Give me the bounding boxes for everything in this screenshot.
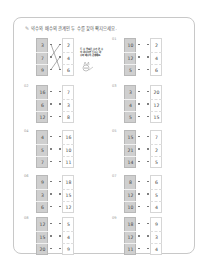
- left-connect-dot[interactable]: [138, 206, 140, 208]
- right-connect-dot[interactable]: [147, 193, 149, 195]
- right-connect-dot[interactable]: [147, 44, 149, 46]
- right-connect-dot[interactable]: [147, 148, 149, 150]
- right-number-column: 654: [150, 175, 162, 213]
- right-connect-dot[interactable]: [59, 181, 61, 183]
- right-connect-dot[interactable]: [59, 235, 61, 237]
- right-number-column: 934: [150, 217, 162, 255]
- left-connect-dot[interactable]: [138, 193, 140, 195]
- left-connect-dot[interactable]: [138, 235, 140, 237]
- problem-03: 03345201215: [118, 85, 190, 123]
- right-connect-dot[interactable]: [59, 103, 61, 105]
- right-connect-dot[interactable]: [147, 248, 149, 250]
- right-connect-dot[interactable]: [59, 44, 61, 46]
- left-connect-dot[interactable]: [138, 91, 140, 93]
- right-connect-dot[interactable]: [147, 223, 149, 225]
- left-connect-dot[interactable]: [50, 116, 52, 118]
- right-number: 6: [150, 64, 162, 77]
- right-number: 2: [62, 39, 74, 52]
- right-connect-dot[interactable]: [147, 103, 149, 105]
- right-connect-dot[interactable]: [147, 206, 149, 208]
- left-connect-dot[interactable]: [50, 91, 52, 93]
- right-connect-dot[interactable]: [59, 136, 61, 138]
- left-number-column: 181211: [124, 217, 136, 255]
- right-connect-dot[interactable]: [59, 248, 61, 250]
- problem-08: 08121520549: [30, 217, 102, 255]
- left-connect-dot[interactable]: [50, 181, 52, 183]
- right-connect-dot[interactable]: [147, 91, 149, 93]
- right-number: 5: [150, 156, 162, 169]
- left-connect-dot[interactable]: [50, 223, 52, 225]
- left-connect-dot[interactable]: [138, 148, 140, 150]
- left-connect-dot[interactable]: [50, 206, 52, 208]
- right-number: 4: [62, 231, 74, 244]
- right-number: 3: [150, 231, 162, 244]
- left-connect-dot[interactable]: [50, 69, 52, 71]
- right-number: 10: [62, 144, 74, 157]
- left-connect-dot[interactable]: [50, 161, 52, 163]
- left-number: 15: [124, 131, 136, 144]
- left-number: 12: [124, 231, 136, 244]
- left-connect-dot[interactable]: [138, 116, 140, 118]
- left-connect-dot[interactable]: [138, 136, 140, 138]
- right-connect-dot[interactable]: [59, 193, 61, 195]
- right-connect-dot[interactable]: [147, 161, 149, 163]
- left-connect-dot[interactable]: [50, 193, 52, 195]
- problem-number: 03: [112, 84, 117, 88]
- left-connect-dot[interactable]: [50, 56, 52, 58]
- right-connect-dot[interactable]: [59, 161, 61, 163]
- right-connect-dot[interactable]: [147, 116, 149, 118]
- right-number: 11: [62, 156, 74, 169]
- left-connect-dot[interactable]: [138, 44, 140, 46]
- right-connect-dot[interactable]: [59, 206, 61, 208]
- left-connect-dot[interactable]: [50, 44, 52, 46]
- right-number-column: 246: [150, 38, 162, 76]
- left-number: 5: [124, 64, 136, 77]
- right-connect-dot[interactable]: [59, 69, 61, 71]
- right-number: 4: [150, 52, 162, 65]
- left-connect-dot[interactable]: [138, 248, 140, 250]
- left-connect-dot[interactable]: [138, 181, 140, 183]
- left-number: 4: [124, 99, 136, 112]
- left-connect-dot[interactable]: [50, 148, 52, 150]
- right-number: 2: [150, 144, 162, 157]
- right-connect-dot[interactable]: [147, 56, 149, 58]
- problem-number: 09: [112, 216, 117, 220]
- problem-09: 09181211934: [118, 217, 190, 255]
- left-connect-dot[interactable]: [50, 235, 52, 237]
- left-number: 7: [36, 52, 48, 65]
- left-number: 6: [36, 201, 48, 214]
- left-number-column: 457: [36, 130, 48, 168]
- left-number: 5: [124, 111, 136, 124]
- left-number: 12: [124, 189, 136, 202]
- right-connect-dot[interactable]: [59, 91, 61, 93]
- left-connect-dot[interactable]: [138, 161, 140, 163]
- left-connect-dot[interactable]: [50, 103, 52, 105]
- right-number: 5: [150, 189, 162, 202]
- left-connect-dot[interactable]: [138, 223, 140, 225]
- left-connect-dot[interactable]: [138, 103, 140, 105]
- right-number: 16: [62, 131, 74, 144]
- right-connect-dot[interactable]: [59, 223, 61, 225]
- right-number-column: 246: [62, 38, 74, 76]
- left-number: 3: [36, 189, 48, 202]
- right-number: 4: [62, 52, 74, 65]
- right-connect-dot[interactable]: [59, 148, 61, 150]
- right-number-column: 549: [62, 217, 74, 255]
- problem-number: 05: [112, 129, 117, 133]
- left-connect-dot[interactable]: [138, 56, 140, 58]
- right-connect-dot[interactable]: [147, 181, 149, 183]
- right-connect-dot[interactable]: [59, 116, 61, 118]
- left-connect-dot[interactable]: [50, 248, 52, 250]
- right-connect-dot[interactable]: [147, 136, 149, 138]
- right-number: 2: [150, 39, 162, 52]
- right-number: 18: [62, 176, 74, 189]
- problem-number: 06: [24, 174, 29, 178]
- right-number: 6: [62, 64, 74, 77]
- problem-07: 0781210654: [118, 175, 190, 213]
- left-connect-dot[interactable]: [138, 69, 140, 71]
- left-number: 3: [36, 39, 48, 52]
- left-connect-dot[interactable]: [50, 136, 52, 138]
- right-connect-dot[interactable]: [59, 56, 61, 58]
- right-connect-dot[interactable]: [147, 69, 149, 71]
- right-connect-dot[interactable]: [147, 235, 149, 237]
